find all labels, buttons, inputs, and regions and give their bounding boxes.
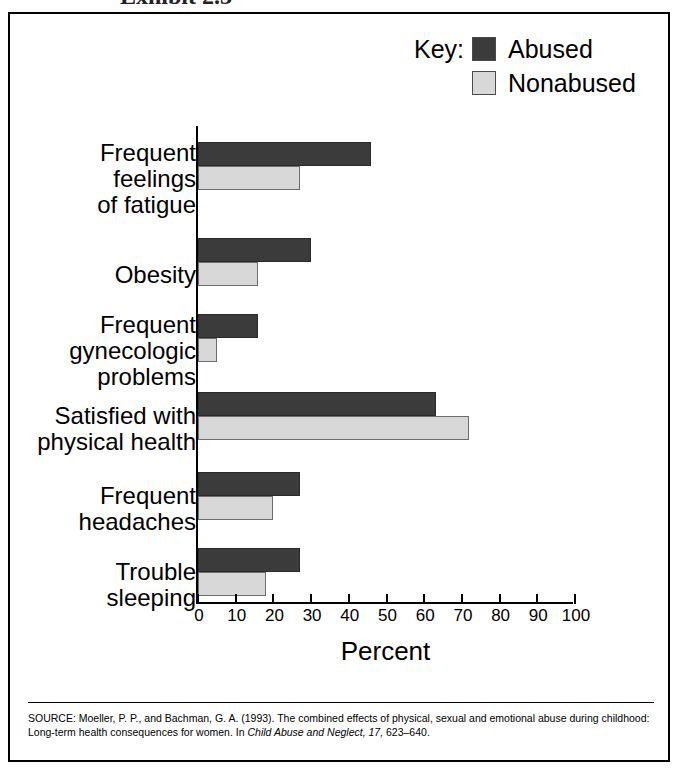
bar-nonabused: [198, 262, 258, 286]
x-tick-label-90: 90: [518, 606, 558, 626]
bar-nonabused: [198, 166, 300, 190]
x-tick-40: [348, 594, 350, 604]
bar-nonabused: [198, 416, 469, 440]
x-tick-label-20: 20: [254, 606, 294, 626]
category-label: Frequent gynecologic problems: [18, 312, 196, 390]
x-tick-10: [235, 594, 237, 604]
x-tick-label-30: 30: [292, 606, 332, 626]
bar-nonabused: [198, 338, 217, 362]
bar-nonabused: [198, 496, 273, 520]
x-tick-label-40: 40: [330, 606, 370, 626]
bar-pair: [198, 238, 311, 286]
cropped-page-heading: Exhibit 2.3: [0, 0, 680, 12]
bar-abused: [198, 314, 258, 338]
bar-pair: [198, 142, 371, 190]
category-label: Satisfied with physical health: [18, 403, 196, 455]
x-tick-70: [461, 594, 463, 604]
x-axis-title: Percent: [196, 636, 575, 667]
source-note: SOURCE: Moeller, P. P., and Bachman, G. …: [28, 712, 654, 739]
y-axis-line: [196, 126, 198, 602]
x-tick-60: [423, 594, 425, 604]
x-axis-line: [196, 602, 573, 604]
bar-pair: [198, 314, 258, 362]
bar-abused: [198, 548, 300, 572]
bar-abused: [198, 472, 300, 496]
x-tick-80: [499, 594, 501, 604]
cropped-heading-text: Exhibit 2.3: [120, 0, 232, 10]
x-tick-100: [574, 594, 576, 604]
bar-pair: [198, 548, 300, 596]
x-tick-20: [272, 594, 274, 604]
category-label: Obesity: [18, 262, 196, 288]
x-tick-90: [536, 594, 538, 604]
x-tick-30: [310, 594, 312, 604]
bar-chart-plot-area: Frequent feelings of fatigueObesityFrequ…: [10, 14, 672, 764]
x-tick-50: [386, 594, 388, 604]
figure-frame: Key: Abused Nonabused Frequent feelings …: [8, 12, 670, 762]
x-tick-label-60: 60: [405, 606, 445, 626]
x-tick-label-70: 70: [443, 606, 483, 626]
bar-abused: [198, 238, 311, 262]
x-tick-label-50: 50: [368, 606, 408, 626]
x-tick-label-0: 0: [179, 606, 219, 626]
x-tick-label-100: 100: [556, 606, 596, 626]
category-label: Frequent feelings of fatigue: [18, 140, 196, 218]
category-label: Frequent headaches: [18, 483, 196, 535]
bar-pair: [198, 392, 469, 440]
x-tick-0: [197, 594, 199, 604]
source-divider: [28, 702, 654, 703]
bar-abused: [198, 392, 436, 416]
bar-nonabused: [198, 572, 266, 596]
bar-abused: [198, 142, 371, 166]
x-tick-label-10: 10: [217, 606, 257, 626]
x-tick-label-80: 80: [481, 606, 521, 626]
source-pages: 623–640.: [383, 726, 430, 738]
bar-pair: [198, 472, 300, 520]
source-journal: Child Abuse and Neglect, 17,: [247, 726, 383, 738]
category-label: Trouble sleeping: [18, 559, 196, 611]
